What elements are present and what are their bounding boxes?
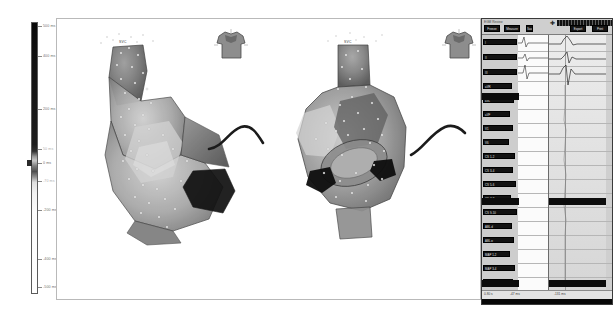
crosshair-cursor-icon: ✚ bbox=[550, 19, 555, 27]
channel-label-text: CS 9-10 bbox=[484, 210, 516, 215]
freeze-button-label: Freeze bbox=[485, 26, 499, 33]
channel-label[interactable]: CS 1-2 bbox=[483, 153, 515, 159]
scale-tick-label: 400 ms bbox=[43, 54, 55, 58]
scale-tick-label: -200 ms bbox=[43, 208, 57, 212]
channel-label[interactable]: MAP 3-4 bbox=[483, 265, 515, 271]
egm-status-bar: 0.80 s -47 ms -131 ms bbox=[482, 290, 613, 299]
channel-label-text: ABL p bbox=[484, 238, 513, 243]
channel-label-text: V6 bbox=[484, 140, 508, 145]
sweep-speed-value: 0.80 s bbox=[484, 292, 493, 296]
scale-tick-label: 50 ms bbox=[43, 147, 53, 151]
egm-trace-column-b[interactable] bbox=[549, 35, 606, 290]
color-scale-marker[interactable] bbox=[27, 160, 32, 166]
channel-label-text: MAP 3-4 bbox=[484, 266, 514, 271]
selection-band[interactable] bbox=[482, 93, 519, 100]
lat-value: -131 ms bbox=[554, 292, 566, 296]
selection-band[interactable] bbox=[482, 198, 519, 205]
channel-label[interactable]: MAP 1-2 bbox=[483, 251, 510, 257]
color-scale-bar bbox=[31, 22, 38, 294]
channel-label-text: aVR bbox=[484, 84, 511, 89]
measure-button-label: Measure bbox=[505, 26, 519, 33]
scale-tick-label: 0 ms bbox=[43, 161, 51, 165]
catheter-right[interactable] bbox=[409, 119, 467, 168]
channel-label-text: III bbox=[484, 70, 516, 75]
freeze-button[interactable]: Freeze bbox=[484, 25, 500, 32]
scale-tick bbox=[38, 259, 42, 260]
electrogram-panel[interactable]: EGM Review ✚ Freeze Measure Save Export … bbox=[481, 18, 613, 305]
save-button[interactable]: Save bbox=[526, 25, 533, 32]
channel-label-text: II bbox=[484, 55, 516, 60]
reference-offset-value: -47 ms bbox=[510, 292, 520, 296]
channel-label[interactable]: I bbox=[483, 39, 517, 45]
channel-label-text: V1 bbox=[484, 126, 512, 131]
egm-trace-column-c bbox=[606, 35, 613, 290]
print-button-label: Print bbox=[593, 26, 607, 33]
channel-label[interactable]: V1 bbox=[483, 125, 513, 131]
channel-label-text: CS 3-4 bbox=[484, 168, 512, 173]
selection-band[interactable] bbox=[482, 280, 519, 287]
scale-tick bbox=[38, 287, 42, 288]
export-button-label: Export bbox=[571, 26, 585, 33]
scale-tick bbox=[38, 26, 42, 27]
channel-label-text: ABL d bbox=[484, 224, 511, 229]
selection-band[interactable] bbox=[549, 280, 606, 287]
channel-label[interactable]: V6 bbox=[483, 139, 509, 145]
torso-orientation-icon bbox=[440, 27, 478, 67]
scale-tick-label: -400 ms bbox=[43, 257, 57, 261]
channel-label-text: I bbox=[484, 40, 516, 45]
channel-label-text: CS 5-6 bbox=[484, 182, 515, 187]
scale-tick bbox=[38, 163, 42, 164]
channel-label[interactable]: ABL p bbox=[483, 237, 514, 243]
geometry-viewport[interactable]: SVC bbox=[56, 18, 481, 300]
channel-label[interactable]: aVR bbox=[483, 83, 512, 89]
channel-label-text: MAP 1-2 bbox=[484, 252, 509, 257]
scale-tick bbox=[38, 109, 42, 110]
scale-tick-label: 500 ms bbox=[43, 24, 55, 28]
print-button[interactable]: Print bbox=[592, 25, 608, 32]
mesh-label-svc: SVC bbox=[119, 40, 127, 44]
channel-label[interactable]: CS 9-10 bbox=[483, 209, 517, 215]
channel-label[interactable]: III bbox=[483, 69, 517, 75]
scale-tick bbox=[38, 181, 42, 182]
channel-label[interactable]: CS 5-6 bbox=[483, 181, 516, 187]
scale-tick bbox=[38, 149, 42, 150]
channel-label[interactable]: aVF bbox=[483, 111, 510, 117]
app-root: 500 ms 400 ms 200 ms 50 ms 0 ms -70 ms -… bbox=[0, 0, 613, 317]
channel-label[interactable]: ABL d bbox=[483, 223, 512, 229]
egm-toolbar-title: EGM Review bbox=[484, 20, 503, 24]
channel-label-text: aVF bbox=[484, 112, 509, 117]
measure-button[interactable]: Measure bbox=[504, 25, 520, 32]
channel-label[interactable]: II bbox=[483, 54, 517, 60]
scale-tick-label: -500 ms bbox=[43, 285, 57, 289]
scale-tick-label: 200 ms bbox=[43, 107, 55, 111]
channel-label[interactable]: CS 3-4 bbox=[483, 167, 513, 173]
egm-toolbar: EGM Review ✚ Freeze Measure Save Export … bbox=[482, 19, 613, 35]
channel-label-text: CS 1-2 bbox=[484, 154, 514, 159]
egm-trace-column-a[interactable] bbox=[518, 35, 549, 290]
channel-label-column: I II III aVR aVL aVF V1 V6 CS 1-2 CS 3-4… bbox=[482, 35, 518, 290]
scale-tick bbox=[38, 210, 42, 211]
selection-band[interactable] bbox=[549, 198, 606, 205]
export-button[interactable]: Export bbox=[570, 25, 586, 32]
egm-footer-bar: ⋮ ← bbox=[482, 299, 613, 305]
catheter-left[interactable] bbox=[207, 119, 267, 168]
torso-orientation-icon bbox=[212, 27, 250, 67]
mesh-label-svc: SVC bbox=[344, 40, 352, 44]
scale-tick bbox=[38, 56, 42, 57]
lat-color-scale: 500 ms 400 ms 200 ms 50 ms 0 ms -70 ms -… bbox=[27, 20, 57, 298]
save-button-label: Save bbox=[527, 26, 532, 33]
scale-tick-label: -70 ms bbox=[43, 179, 55, 183]
